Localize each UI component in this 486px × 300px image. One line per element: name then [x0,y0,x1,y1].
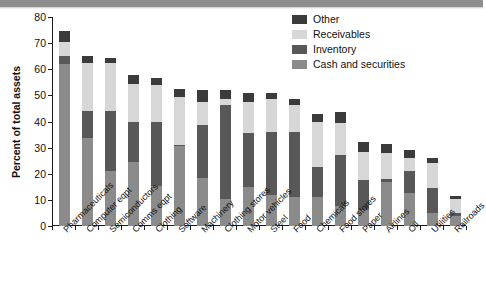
bar-segment [404,150,415,158]
bar-segment [105,111,116,171]
bar-segment [381,153,392,179]
y-tick-label: 80 [34,12,46,23]
x-axis-labels: PharmaceuticalsComputer eqptSemiconducto… [52,228,472,300]
bar-segment [220,105,231,199]
y-tick [48,69,52,70]
bar-segment [404,158,415,171]
bar-segment [312,114,323,122]
bar-segment [427,163,438,188]
legend-item[interactable]: Cash and securities [292,58,405,71]
bar-segment [404,171,415,193]
bar-segment [105,63,116,111]
y-tick-label: 70 [34,38,46,49]
y-tick [48,200,52,201]
legend-label: Cash and securities [313,59,405,70]
y-tick-label: 0 [40,221,46,232]
legend-swatch [292,15,307,24]
y-tick [48,122,52,123]
bar-segment [128,75,139,84]
legend-item[interactable]: Other [292,13,405,26]
bar-segment [151,122,162,186]
bar-segment [243,93,254,102]
legend-swatch [292,45,307,54]
y-tick-label: 30 [34,142,46,153]
y-tick-label: 50 [34,90,46,101]
y-tick [48,17,52,18]
bar-column[interactable] [59,31,70,226]
y-tick [48,148,52,149]
bar-segment [197,125,208,177]
chart-legend: OtherReceivablesInventoryCash and securi… [292,13,405,73]
bar-segment [358,142,369,151]
legend-item[interactable]: Inventory [292,43,405,56]
legend-swatch [292,60,307,69]
bar-segment [59,42,70,56]
y-tick-label: 10 [34,195,46,206]
bar-segment [82,111,93,138]
bar-segment [312,122,323,168]
y-tick-label: 60 [34,64,46,75]
y-tick [48,174,52,175]
bar-segment [335,123,346,156]
bar-segment [59,56,70,64]
bar-segment [312,167,323,197]
bar-segment [197,102,208,126]
bar-segment [358,152,369,181]
legend-item[interactable]: Receivables [292,28,405,41]
y-tick [48,43,52,44]
legend-label: Other [313,14,339,25]
bar-segment [381,144,392,153]
bar-segment [59,64,70,226]
y-axis-title: Percent of total assets [8,17,24,226]
bar-segment [197,90,208,102]
bar-segment [289,132,300,197]
bar-segment [243,102,254,133]
bar-segment [266,99,277,132]
bar-column[interactable] [381,144,392,226]
bar-segment [427,188,438,213]
bar-segment [243,133,254,187]
bar-segment [128,84,139,122]
bar-segment [59,31,70,41]
bar-segment [128,122,139,162]
y-axis-title-text: Percent of total assets [10,65,22,177]
bar-column[interactable] [427,158,438,226]
bar-segment [174,89,185,97]
bar-column[interactable] [289,99,300,226]
y-tick-label: 20 [34,169,46,180]
bar-segment [82,63,93,111]
legend-label: Receivables [313,29,370,40]
page-scan-band [0,0,483,7]
bar-segment [151,85,162,122]
bar-column[interactable] [312,114,323,226]
bar-segment [174,97,185,145]
legend-label: Inventory [313,44,356,55]
bar-segment [220,90,231,99]
legend-swatch [292,30,307,39]
bar-segment [266,132,277,195]
bar-segment [289,105,300,132]
bar-segment [335,112,346,122]
page-scan-band-shadow [0,7,483,9]
y-tick [48,95,52,96]
y-tick-label: 40 [34,116,46,127]
